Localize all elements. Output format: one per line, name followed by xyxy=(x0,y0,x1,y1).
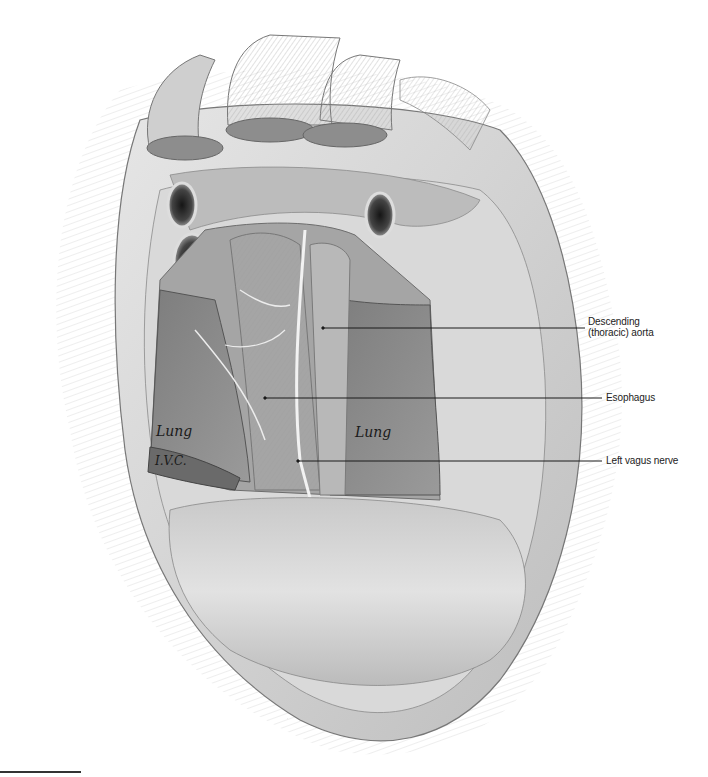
label-esophagus: Esophagus xyxy=(606,392,655,403)
lung-right-label: Lung xyxy=(354,424,391,440)
label-left-vagus-nerve: Left vagus nerve xyxy=(606,455,678,466)
label-left-vagus-nerve-text: Left vagus nerve xyxy=(606,455,678,466)
label-esophagus-text: Esophagus xyxy=(606,392,655,403)
label-descending-aorta-line1: Descending xyxy=(588,316,654,327)
label-descending-aorta-line2: (thoracic) aorta xyxy=(588,327,654,338)
footnote-rule xyxy=(0,771,81,773)
label-descending-aorta: Descending (thoracic) aorta xyxy=(588,316,654,338)
anatomical-illustration: Lung Lung I.V.C. xyxy=(0,0,708,777)
ivc-label: I.V.C. xyxy=(154,454,187,468)
lung-left-label: Lung xyxy=(155,423,192,439)
